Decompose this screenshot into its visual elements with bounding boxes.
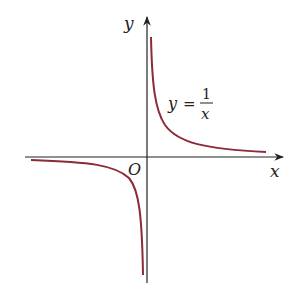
equation-equals: = (183, 95, 196, 113)
equation-denominator: x (201, 105, 210, 123)
x-axis-label: x (270, 161, 280, 181)
curve-left-branch (31, 160, 143, 275)
y-axis-label: y (123, 13, 134, 33)
equation-label: y = 1 x (167, 86, 213, 123)
equation-lhs: y (167, 94, 178, 113)
equation-numerator: 1 (202, 86, 211, 102)
hyperbola-diagram: y x O y = 1 x (0, 0, 301, 303)
origin-label: O (128, 160, 141, 179)
